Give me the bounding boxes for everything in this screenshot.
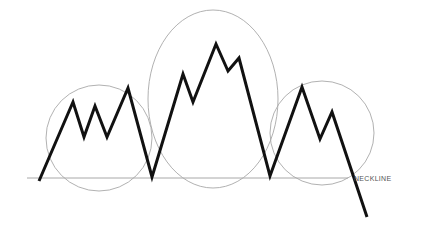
head-and-shoulders-diagram: NECKLINE [0,0,447,238]
price-line [39,44,367,217]
left-shoulder-circle [46,85,152,191]
neckline-label: NECKLINE [354,175,391,182]
head-circle [148,10,278,188]
pattern-regions [46,10,374,191]
